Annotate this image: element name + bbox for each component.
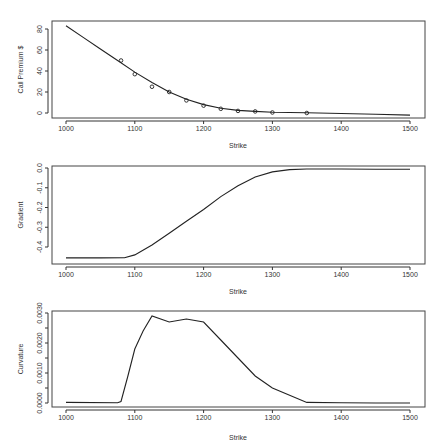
x-tick-label: 1400 [333, 414, 349, 421]
x-axis: 100011001200130014001500 [58, 267, 418, 278]
x-axis: 100011001200130014001500 [58, 121, 418, 132]
y-tick-label: -0.4 [36, 241, 43, 253]
y-tick-label: 80 [36, 25, 43, 33]
y-tick-label: 60 [36, 46, 43, 54]
series-line [66, 169, 410, 258]
call-premium-panel: 100011001200130014001500Strike020406080C… [17, 21, 425, 149]
y-axis-title: Curvature [17, 344, 24, 375]
y-tick-label: 0.0 [36, 163, 43, 173]
x-axis-title: Strike [229, 142, 247, 149]
gradient-panel: 100011001200130014001500Strike0.0-0.1-0.… [17, 163, 425, 295]
x-tick-label: 1500 [402, 125, 418, 132]
x-tick-label: 1300 [265, 414, 281, 421]
plot-frame [52, 21, 425, 118]
data-point [150, 85, 154, 89]
y-tick-label: 40 [36, 67, 43, 75]
x-tick-label: 1500 [402, 414, 418, 421]
x-tick-label: 1300 [265, 125, 281, 132]
x-tick-label: 1000 [58, 125, 74, 132]
chart-figure: 100011001200130014001500Strike020406080C… [0, 0, 442, 448]
x-tick-label: 1200 [196, 271, 212, 278]
y-tick-label: 0.0000 [36, 392, 43, 414]
x-tick-label: 1200 [196, 414, 212, 421]
y-tick-label: -0.3 [36, 221, 43, 233]
y-tick-label: 0.0010 [36, 362, 43, 384]
curvature-panel: 100011001200130014001500Strike0.00000.00… [17, 302, 425, 441]
x-tick-label: 1000 [58, 271, 74, 278]
y-tick-label: -0.1 [36, 182, 43, 194]
y-tick-label: 0.0020 [36, 332, 43, 354]
series-line [66, 316, 410, 403]
x-tick-label: 1500 [402, 271, 418, 278]
x-axis: 100011001200130014001500 [58, 410, 418, 421]
y-axis: 0.00000.00100.00200.0030 [36, 302, 48, 414]
y-axis: 0.0-0.1-0.2-0.3-0.4 [36, 163, 48, 253]
x-tick-label: 1100 [127, 125, 142, 132]
x-tick-label: 1100 [127, 414, 142, 421]
y-tick-label: -0.2 [36, 201, 43, 213]
x-tick-label: 1300 [265, 271, 281, 278]
x-axis-title: Strike [229, 288, 247, 295]
x-tick-label: 1100 [127, 271, 142, 278]
y-tick-label: 20 [36, 88, 43, 96]
data-point [133, 72, 137, 76]
plot-frame [52, 166, 425, 264]
x-tick-label: 1400 [333, 125, 349, 132]
y-axis-title: Gradient [17, 202, 24, 229]
y-tick-label: 0.0030 [36, 302, 43, 324]
x-tick-label: 1400 [333, 271, 349, 278]
data-point [119, 59, 123, 63]
y-tick-label: 0 [36, 111, 43, 115]
y-axis: 020406080 [36, 25, 48, 115]
x-tick-label: 1000 [58, 414, 74, 421]
x-tick-label: 1200 [196, 125, 212, 132]
x-axis-title: Strike [229, 434, 247, 441]
series-line [66, 26, 410, 115]
y-axis-title: Call Premium $ [17, 45, 24, 93]
